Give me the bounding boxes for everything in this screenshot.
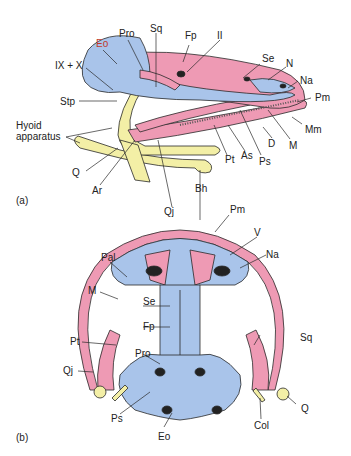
label-qj-a: Qj bbox=[164, 207, 174, 217]
label-m-b: M bbox=[88, 286, 96, 296]
label-v-b: V bbox=[254, 228, 261, 238]
label-pm-b: Pm bbox=[230, 205, 245, 215]
label-qj-b: Qj bbox=[63, 366, 73, 376]
label-apparatus-a: apparatus bbox=[16, 132, 60, 142]
label-pt-a: Pt bbox=[225, 155, 234, 165]
label-as-a: As bbox=[241, 151, 253, 161]
label-stp-a: Stp bbox=[60, 97, 75, 107]
label-se-a: Se bbox=[262, 54, 274, 64]
label-pt-b: Pt bbox=[70, 337, 79, 347]
panel-b-tag: (b) bbox=[16, 433, 28, 443]
label-mm-a: Mm bbox=[305, 125, 322, 135]
label-eo-a: Eo bbox=[96, 39, 108, 49]
label-n-a: N bbox=[286, 59, 293, 69]
label-ix-x-a: IX + X bbox=[55, 61, 83, 71]
otic-region bbox=[119, 354, 241, 420]
label-hyoid-a: Hyoid bbox=[16, 121, 42, 131]
label-fp-a: Fp bbox=[185, 31, 197, 41]
label-pro-b: Pro bbox=[135, 349, 151, 359]
label-se-b: Se bbox=[143, 297, 155, 307]
label-ps-a: Ps bbox=[259, 157, 271, 167]
label-d-a: D bbox=[268, 139, 275, 149]
label-pm-a: Pm bbox=[315, 93, 330, 103]
label-ii-a: II bbox=[217, 31, 223, 41]
label-q-a: Q bbox=[72, 168, 80, 178]
label-na-b: Na bbox=[266, 250, 279, 260]
label-na-a: Na bbox=[300, 76, 313, 86]
label-pro-a: Pro bbox=[119, 29, 135, 39]
label-fp-b: Fp bbox=[143, 322, 155, 332]
label-q-b: Q bbox=[301, 404, 309, 414]
panel-a-tag: (a) bbox=[16, 196, 28, 206]
label-ar-a: Ar bbox=[92, 186, 102, 196]
label-eo-b: Eo bbox=[158, 432, 170, 442]
label-pal-b: Pal bbox=[101, 253, 115, 263]
label-sq-a: Sq bbox=[150, 24, 162, 34]
skull-diagram bbox=[0, 0, 351, 456]
label-sq-b: Sq bbox=[300, 333, 312, 343]
label-bh-a: Bh bbox=[195, 184, 207, 194]
label-col-b: Col bbox=[254, 421, 269, 431]
label-m-a: M bbox=[289, 141, 297, 151]
label-ps-b: Ps bbox=[111, 414, 123, 424]
